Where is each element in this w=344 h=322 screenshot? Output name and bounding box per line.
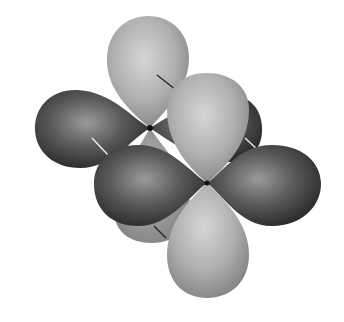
node-back — [147, 125, 153, 131]
node-front — [205, 181, 210, 186]
orbital-diagram — [0, 0, 344, 322]
orbital-figure: 3D rendering of two overlapping four-lob… — [0, 0, 344, 322]
